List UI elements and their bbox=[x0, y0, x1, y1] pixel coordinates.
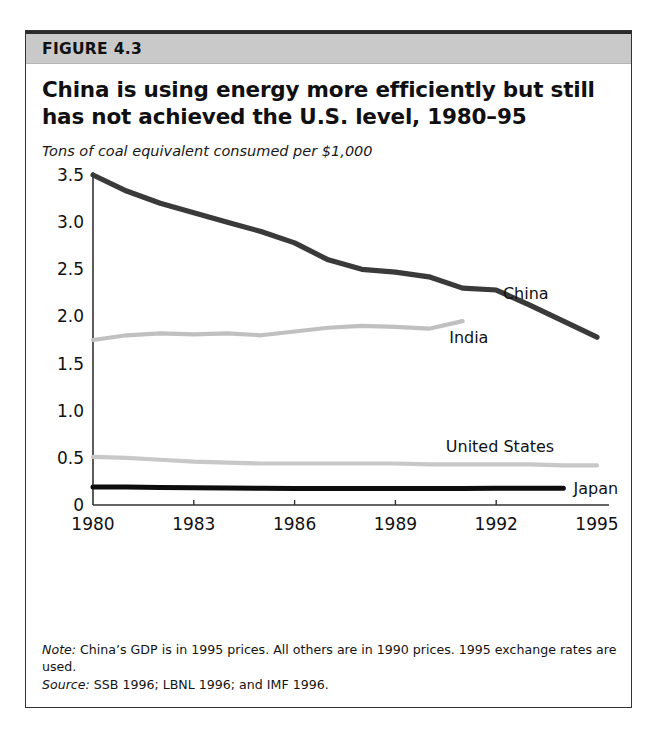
series-label-united-states: United States bbox=[446, 437, 554, 456]
x-tick-label: 1980 bbox=[71, 514, 114, 534]
y-tick-label: 1.5 bbox=[57, 354, 84, 374]
series-label-japan: Japan bbox=[572, 479, 618, 498]
source-text: SSB 1996; LBNL 1996; and IMF 1996. bbox=[90, 677, 329, 692]
y-tick-label: 1.0 bbox=[57, 401, 84, 421]
x-tick-label: 1992 bbox=[475, 514, 518, 534]
y-tick-label: 2.5 bbox=[57, 259, 84, 279]
figure-note: Note: China’s GDP is in 1995 prices. All… bbox=[42, 641, 617, 676]
y-tick-label: 3.0 bbox=[57, 212, 84, 232]
y-tick-label: 2.0 bbox=[57, 306, 84, 326]
note-text: China’s GDP is in 1995 prices. All other… bbox=[42, 642, 616, 675]
series-label-china: China bbox=[503, 284, 549, 303]
figure-title: China is using energy more efficiently b… bbox=[26, 64, 631, 130]
source-key: Source: bbox=[42, 677, 90, 692]
series-line-india bbox=[93, 321, 463, 340]
y-tick-label: 3.5 bbox=[57, 165, 84, 185]
note-key: Note: bbox=[42, 642, 76, 657]
figure-container: FIGURE 4.3 China is using energy more ef… bbox=[25, 30, 632, 708]
chart-subtitle: Tons of coal equivalent consumed per $1,… bbox=[26, 130, 631, 159]
x-tick-label: 1989 bbox=[374, 514, 417, 534]
y-tick-label: 0.5 bbox=[57, 448, 84, 468]
series-line-united-states bbox=[93, 457, 597, 465]
chart-plot-area: 00.51.01.52.02.53.03.5 19801983198619891… bbox=[26, 163, 631, 563]
series-label-india: India bbox=[449, 328, 488, 347]
line-chart-svg: 00.51.01.52.02.53.03.5 19801983198619891… bbox=[26, 163, 630, 563]
x-tick-label: 1995 bbox=[575, 514, 618, 534]
series-line-japan bbox=[93, 487, 563, 489]
y-axis-tick-labels: 00.51.01.52.02.53.03.5 bbox=[57, 165, 84, 515]
y-tick-label: 0 bbox=[73, 495, 84, 515]
figure-source: Source: SSB 1996; LBNL 1996; and IMF 199… bbox=[42, 676, 617, 694]
figure-footer: Note: China’s GDP is in 1995 prices. All… bbox=[42, 641, 617, 694]
x-tick-label: 1986 bbox=[273, 514, 316, 534]
figure-header-band: FIGURE 4.3 bbox=[26, 31, 631, 64]
x-tick-label: 1983 bbox=[172, 514, 215, 534]
figure-number-label: FIGURE 4.3 bbox=[42, 40, 142, 58]
series-line-china bbox=[93, 175, 597, 337]
